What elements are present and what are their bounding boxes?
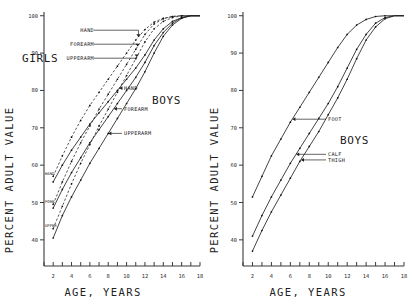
y-tick-label: 60 [231, 162, 238, 168]
data-point [98, 112, 100, 114]
data-point [356, 58, 358, 60]
data-point [80, 136, 82, 138]
x-tick-label: 6 [88, 273, 91, 279]
data-point [62, 181, 64, 183]
x-tick-label: 14 [160, 273, 167, 279]
x-axis-title-right: AGE, YEARS [269, 286, 346, 298]
x-tick-label: 10 [123, 273, 130, 279]
data-point [89, 162, 91, 164]
data-point [153, 23, 155, 25]
group-label-boys: BOYS [152, 94, 181, 107]
chart-panel-leg: 40506070809010024681012141618 FOOTCALFTH… [208, 0, 415, 305]
data-point [153, 39, 155, 41]
x-tick-label: 2 [52, 273, 55, 279]
y-tick-label: 70 [231, 125, 238, 131]
data-point [346, 34, 348, 36]
annotation-arrowhead [135, 44, 139, 47]
y-tick-label: 40 [32, 237, 39, 243]
curve-label-upperarm: UPPERARM [124, 130, 151, 136]
data-point [290, 162, 292, 164]
y-tick-label: 50 [231, 200, 238, 206]
x-tick-label: 10 [325, 273, 332, 279]
data-point [356, 49, 358, 51]
data-point [308, 146, 310, 148]
data-point [181, 18, 183, 20]
curve-label-upperarm: UPPERARM [67, 55, 94, 61]
data-point [181, 15, 183, 17]
data-point [89, 142, 91, 144]
x-tick-label: 8 [308, 273, 311, 279]
data-point [162, 20, 164, 22]
data-point [384, 18, 386, 20]
y-tick-label: 90 [231, 50, 238, 56]
data-point [252, 196, 254, 198]
x-tick-label: 16 [382, 273, 389, 279]
data-point [346, 78, 348, 80]
data-point [135, 67, 137, 69]
data-point [117, 90, 119, 92]
data-point [153, 28, 155, 30]
curve-label-hand: HAND [124, 85, 138, 91]
data-point [318, 131, 320, 133]
y-tick-label: 60 [32, 162, 39, 168]
curve-boys-calf [252, 16, 404, 236]
data-point [318, 77, 320, 79]
mini-curve-label-hand: HAND [45, 171, 55, 176]
data-point [89, 123, 91, 125]
data-point [98, 129, 100, 131]
annotations-leg: FOOTCALFTHIGH [292, 116, 345, 163]
data-point [71, 196, 73, 198]
data-point [52, 207, 54, 209]
data-point [299, 161, 301, 163]
data-point [144, 54, 146, 56]
curve-boys-upperarm [53, 16, 200, 238]
data-point [144, 29, 146, 31]
data-point [80, 162, 82, 164]
data-point [126, 103, 128, 105]
y-tick-label: 40 [231, 237, 238, 243]
data-point [252, 235, 254, 237]
y-tick-label: 100 [227, 13, 237, 19]
curve-label-hand: HAND [80, 27, 94, 33]
y-tick-label: 100 [28, 13, 38, 19]
x-tick-label: 4 [270, 273, 273, 279]
x-tick-label: 6 [289, 273, 292, 279]
data-point [144, 71, 146, 73]
data-point [280, 194, 282, 196]
data-point [261, 176, 263, 178]
data-point [280, 179, 282, 181]
data-point [71, 161, 73, 163]
x-tick-label: 12 [344, 273, 351, 279]
data-point [271, 196, 273, 198]
x-axis-title-left: AGE, YEARS [64, 286, 141, 298]
axes-leg: 40506070809010024681012141618 [227, 12, 407, 279]
data-point [62, 164, 64, 166]
data-point [162, 28, 164, 30]
x-tick-label: 14 [363, 273, 370, 279]
data-point [62, 205, 64, 207]
data-point [144, 34, 146, 36]
data-point [52, 181, 54, 183]
data-point [80, 179, 82, 181]
data-point [280, 138, 282, 140]
x-tick-label: 8 [107, 273, 110, 279]
data-point [365, 19, 367, 21]
data-point [80, 157, 82, 159]
data-point [375, 26, 377, 28]
x-tick-label: 4 [70, 273, 73, 279]
data-point [62, 189, 64, 191]
data-point [172, 24, 174, 26]
figure-root: 40506070809010024681012141618 HANDFOREAR… [0, 0, 415, 305]
data-point [271, 155, 273, 157]
data-point [172, 17, 174, 19]
data-point [356, 24, 358, 26]
data-point [290, 177, 292, 179]
data-point [80, 119, 82, 121]
data-point [290, 121, 292, 123]
data-point [71, 183, 73, 185]
data-point [299, 147, 301, 149]
data-point [107, 101, 109, 103]
data-point [162, 18, 164, 20]
data-point [71, 149, 73, 151]
group-label-girls: GIRLS [22, 52, 58, 65]
